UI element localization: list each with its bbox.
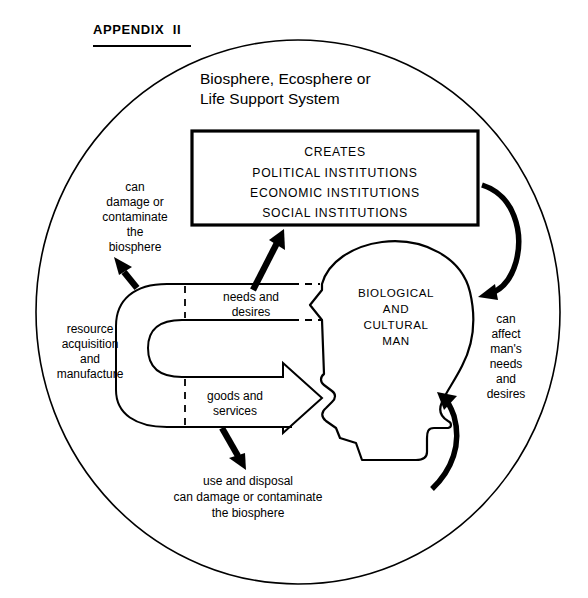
bottom-note-line-0: use and disposal <box>203 474 293 488</box>
flow-loop-inner-boundary <box>148 320 292 377</box>
left-note-line-3: manufacture <box>57 367 124 381</box>
bottom-note-line-1: can damage or contaminate <box>174 490 323 504</box>
institutions-to-man-curved-arrow <box>482 185 519 294</box>
man-label-line-2: CULTURAL <box>363 318 428 331</box>
upper-left-note-line-4: biosphere <box>109 240 162 254</box>
right-note-line-1: affect <box>491 327 521 341</box>
goods-and-services-line-0: goods and <box>207 389 263 403</box>
man-label-line-3: MAN <box>382 334 410 347</box>
goods-and-services-hollow-arrow <box>253 363 322 433</box>
left-note-line-2: and <box>80 352 100 366</box>
goods-to-disposal-arrow-shaft <box>222 428 238 456</box>
upper-left-note-line-3: the <box>127 225 144 239</box>
resource-to-biosphere-arrow-shaft <box>124 272 137 288</box>
right-note-line-5: desires <box>487 387 526 401</box>
institutions-line-0: CREATES <box>304 145 366 159</box>
bottom-note-line-2: the biosphere <box>212 506 285 520</box>
upper-left-note-line-2: contaminate <box>102 210 168 224</box>
goods-to-disposal-arrowhead <box>229 453 246 470</box>
right-note-line-0: can <box>496 312 515 326</box>
upper-left-note-line-0: can <box>125 180 144 194</box>
upper-left-note-line-1: damage or <box>106 195 163 209</box>
left-note-line-1: acquisition <box>62 337 119 351</box>
man-label-line-0: BIOLOGICAL <box>358 286 434 299</box>
systems-diagram-canvas: Biosphere, Ecosphere or Life Support Sys… <box>0 0 588 598</box>
institutions-to-man-arrowhead <box>478 284 498 300</box>
needs-and-desires-line-0: needs and <box>223 290 279 304</box>
institutions-line-3: SOCIAL INSTITUTIONS <box>262 206 408 220</box>
institutions-line-1: POLITICAL INSTITUTIONS <box>252 166 417 180</box>
right-note-line-2: man's <box>490 342 522 356</box>
biological-cultural-man-head <box>310 241 473 460</box>
man-label-line-1: AND <box>383 302 409 315</box>
goods-and-services-line-1: services <box>213 404 257 418</box>
left-note-line-0: resource <box>67 322 114 336</box>
diagram-page: APPENDIX II Biosphere, Ecosphere or Life… <box>0 0 588 598</box>
biosphere-label-line2: Life Support System <box>200 90 340 107</box>
institutions-line-2: ECONOMIC INSTITUTIONS <box>250 186 420 200</box>
needs-to-institutions-arrow-shaft <box>253 243 277 290</box>
right-note-line-3: needs <box>490 357 523 371</box>
right-note-line-4: and <box>496 372 516 386</box>
needs-and-desires-line-1: desires <box>232 305 271 319</box>
biosphere-label-line1: Biosphere, Ecosphere or <box>200 70 371 87</box>
resource-to-biosphere-arrowhead <box>114 257 132 275</box>
